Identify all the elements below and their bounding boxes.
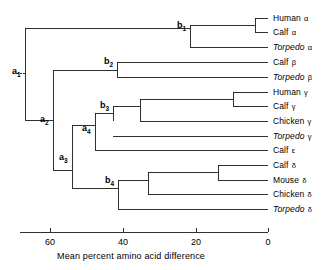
leaf-genus: Torpedo	[273, 42, 305, 52]
leaf-label-chicken-gamma: Chicken γ	[273, 117, 311, 126]
leaf-chain-symbol: α	[289, 28, 297, 37]
leaf-genus: Human	[273, 13, 301, 23]
axis-group	[20, 228, 268, 232]
leaf-chain-symbol: α	[305, 43, 313, 52]
node-label-subscript: 4	[87, 128, 91, 135]
node-label-subscript: 3	[106, 105, 110, 112]
node-label-subscript: 4	[111, 180, 115, 187]
leaf-genus: Torpedo	[273, 204, 305, 214]
leaf-label-mouse-delta: Mouse δ	[273, 176, 306, 185]
axis-tick-label-40: 40	[118, 238, 128, 247]
node-label-subscript: 1	[17, 71, 21, 78]
leaf-label-human-alpha: Human α	[273, 14, 309, 23]
node-label-subscript: 2	[45, 119, 49, 126]
node-label-b2: b2	[104, 57, 113, 68]
leaf-chain-symbol: δ	[299, 176, 306, 185]
leaf-genus: Torpedo	[273, 72, 305, 82]
axis-tick-label-20: 20	[191, 238, 201, 247]
node-label-b1: b1	[177, 21, 186, 32]
node-label-a2: a2	[40, 115, 49, 126]
leaf-genus: Mouse	[273, 175, 299, 185]
leaf-label-calf-alpha: Calf α	[273, 28, 296, 37]
node-label-subscript: 2	[110, 61, 114, 68]
leaf-genus: Calf	[273, 145, 289, 155]
leaf-genus: Torpedo	[273, 131, 305, 141]
node-label-a1: a1	[12, 67, 21, 78]
node-label-subscript: 3	[64, 157, 68, 164]
leaf-label-torpedo-beta: Torpedo β	[273, 73, 312, 82]
leaf-chain-symbol: γ	[305, 132, 312, 141]
phylogenetic-tree-figure: Human αCalf αTorpedo αCalf βTorpedo βHum…	[0, 0, 331, 270]
leaf-genus: Calf	[273, 57, 289, 67]
leaf-label-chicken-delta: Chicken δ	[273, 190, 312, 199]
axis-tick-label-60: 60	[45, 238, 55, 247]
leaf-chain-symbol: δ	[289, 161, 296, 170]
leaf-chain-symbol: δ	[304, 190, 311, 199]
axis-tick-label-0: 0	[265, 238, 270, 247]
leaf-chain-symbol: β	[289, 58, 297, 67]
leaf-label-calf-epsilon: Calf ε	[273, 146, 295, 155]
leaf-genus: Chicken	[273, 189, 304, 199]
leaf-label-torpedo-alpha: Torpedo α	[273, 43, 312, 52]
leaf-chain-symbol: γ	[301, 88, 308, 97]
node-label-b4: b4	[105, 176, 114, 187]
leaf-genus: Human	[273, 87, 301, 97]
leaf-chain-symbol: β	[305, 73, 313, 82]
leaf-genus: Chicken	[273, 116, 304, 126]
leaf-label-calf-beta: Calf β	[273, 58, 296, 67]
leaf-label-human-gamma: Human γ	[273, 88, 308, 97]
leaf-genus: Calf	[273, 160, 289, 170]
leaf-label-torpedo-delta: Torpedo δ	[273, 205, 312, 214]
node-label-a3: a3	[59, 153, 68, 164]
leaf-genus: Calf	[273, 101, 289, 111]
leaf-chain-symbol: γ	[304, 117, 311, 126]
node-label-subscript: 1	[183, 25, 187, 32]
leaf-genus: Calf	[273, 27, 289, 37]
leaf-label-calf-delta: Calf δ	[273, 161, 296, 170]
leaf-label-torpedo-gamma: Torpedo γ	[273, 132, 312, 141]
axis-caption: Mean percent amino acid difference	[57, 252, 205, 261]
node-label-b3: b3	[100, 101, 109, 112]
leaf-chain-symbol: δ	[305, 205, 312, 214]
leaf-chain-symbol: γ	[289, 102, 296, 111]
node-label-a4: a4	[82, 124, 91, 135]
leaf-label-calf-gamma: Calf γ	[273, 102, 296, 111]
leaf-chain-symbol: α	[301, 14, 309, 23]
branch-lines-group	[25, 18, 268, 209]
leaf-chain-symbol: ε	[289, 146, 296, 155]
